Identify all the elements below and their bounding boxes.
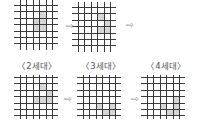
grid-hline xyxy=(72,7,116,8)
grid-hline xyxy=(141,83,185,84)
grid-vline xyxy=(173,75,174,119)
grid-hline xyxy=(141,77,185,78)
grid-gen-2 xyxy=(14,75,58,119)
grid-hline xyxy=(14,24,58,25)
grid-hline xyxy=(14,115,58,116)
grid-vline xyxy=(160,75,161,119)
grid-hline xyxy=(14,5,58,6)
grid-hline xyxy=(14,31,58,32)
grid-hline xyxy=(141,115,185,116)
grid-gen-4 xyxy=(141,75,185,119)
right-arrow-icon: ⇨ xyxy=(126,21,134,30)
grid-hline xyxy=(77,103,121,104)
grid-gen-3 xyxy=(77,75,121,119)
grid-hline xyxy=(72,26,116,27)
grid-vline xyxy=(52,75,53,119)
grid-hline xyxy=(72,33,116,34)
grid-hline xyxy=(141,109,185,110)
grid-hline xyxy=(14,18,58,19)
grid-vline xyxy=(39,75,40,119)
grid-vline xyxy=(102,75,103,119)
grid-hline xyxy=(77,90,121,91)
grid-hline xyxy=(14,103,58,104)
grid-hline xyxy=(14,37,58,38)
grid-hline xyxy=(72,13,116,14)
right-arrow-icon: ⇨ xyxy=(66,22,74,31)
grid-hline xyxy=(77,115,121,116)
grid-hline xyxy=(77,77,121,78)
grid-vline xyxy=(115,75,116,119)
grid-hline xyxy=(72,45,116,46)
label-gen-4: 〈4세대〉 xyxy=(146,61,185,71)
grid-hline xyxy=(77,109,121,110)
grid-vline xyxy=(147,75,148,119)
grid-hline xyxy=(72,39,116,40)
grid-hline xyxy=(141,96,185,97)
grid-vline xyxy=(20,75,21,119)
grid-vline xyxy=(96,75,97,119)
grid-vline xyxy=(166,75,167,119)
right-arrow-icon: ⇨ xyxy=(131,95,139,104)
grid-hline xyxy=(77,83,121,84)
label-gen-3: 〈3세대〉 xyxy=(81,61,120,71)
grid-vline xyxy=(89,75,90,119)
grid-hline xyxy=(141,90,185,91)
grid-hline xyxy=(141,103,185,104)
grid-hline xyxy=(14,43,58,44)
grid-hline xyxy=(14,77,58,78)
right-arrow-icon: ⇨ xyxy=(64,95,72,104)
grid-vline xyxy=(179,75,180,119)
label-gen-2: 〈2세대〉 xyxy=(17,61,56,71)
grid-vline xyxy=(153,75,154,119)
grid-hline xyxy=(14,96,58,97)
grid-vline xyxy=(33,75,34,119)
grid-top-2 xyxy=(72,2,116,52)
grid-hline xyxy=(14,83,58,84)
grid-hline xyxy=(14,109,58,110)
grid-hline xyxy=(14,90,58,91)
grid-top-1 xyxy=(14,0,58,50)
grid-vline xyxy=(46,75,47,119)
grid-hline xyxy=(14,11,58,12)
grid-vline xyxy=(109,75,110,119)
grid-hline xyxy=(77,96,121,97)
grid-vline xyxy=(26,75,27,119)
grid-vline xyxy=(83,75,84,119)
grid-hline xyxy=(72,20,116,21)
